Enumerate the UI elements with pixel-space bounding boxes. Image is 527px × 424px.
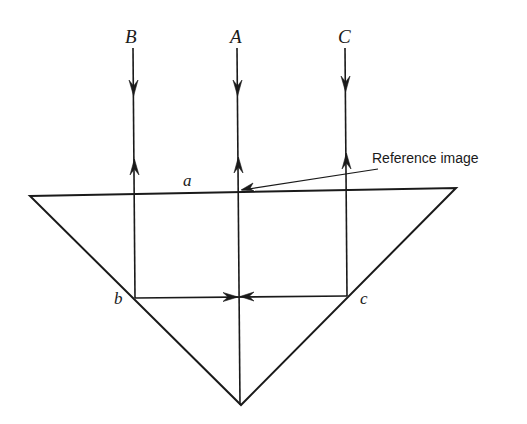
ray-label-b: B — [125, 27, 137, 46]
reference-arrow-icon — [241, 183, 254, 191]
reference-image-annotation: Reference image — [372, 151, 479, 165]
point-label-a: a — [183, 172, 192, 189]
ray-a-line — [237, 48, 240, 405]
point-label-b: b — [114, 290, 123, 307]
ray-label-c: C — [338, 27, 351, 46]
point-label-c: c — [360, 290, 368, 307]
reference-leader-line — [242, 169, 378, 190]
ray-diagram-svg — [0, 0, 527, 424]
ray-label-a: A — [230, 27, 242, 46]
diagram-canvas: B A C a b c Reference image — [0, 0, 527, 424]
